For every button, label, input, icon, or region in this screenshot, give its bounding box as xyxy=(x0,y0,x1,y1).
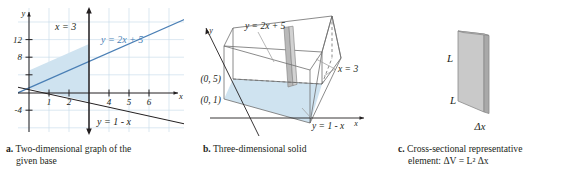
label-3d-y-equals-2x-plus-5: y = 2x + 5 xyxy=(244,21,286,31)
caption-b-line1: Three-dimensional solid xyxy=(213,143,307,154)
label-3d-y-equals-1-minus-x: y = 1 - x xyxy=(311,121,345,131)
x-axis-3d-arrowhead xyxy=(360,116,365,119)
caption-c-letter: c. xyxy=(398,143,405,154)
caption-c-line2: element: ΔV = L² Δx xyxy=(398,155,571,167)
x-axis-label: x xyxy=(178,91,183,101)
caption-a-line1: Two-dimensional graph of the xyxy=(15,143,131,154)
solid-left-face xyxy=(224,46,322,123)
element-side-label-left: L xyxy=(446,52,453,64)
y-axis-label: y xyxy=(21,8,26,18)
element-side-label-bottom: L xyxy=(449,94,456,106)
y-tick-label-12: 12 xyxy=(13,35,23,45)
element-thickness-label: Δx xyxy=(474,121,486,132)
caption-panel-c: c. Cross-sectional representative elemen… xyxy=(398,143,571,166)
caption-panel-b: b. Three-dimensional solid xyxy=(203,143,393,155)
label-3d-x-equals-3: x = 3 xyxy=(337,64,358,74)
point-label-0-1: (0, 1) xyxy=(200,95,221,106)
y-tick-label-minus-4: -4 xyxy=(15,105,23,115)
figure-container: 1 2 4 5 6 12 8 -4 x y x = 3 y = 2x + 5 y… xyxy=(0,0,571,183)
x-tick-label-5: 5 xyxy=(127,97,132,107)
caption-a-letter: a. xyxy=(6,143,13,154)
y-axis-3d-label: y xyxy=(208,26,213,35)
element-front-face xyxy=(458,31,484,112)
element-thickness-face xyxy=(484,34,489,114)
panel-c-cross-sectional-element: L L Δx xyxy=(396,0,571,140)
panel-c-svg: L L Δx xyxy=(396,0,571,140)
x-tick-label-2: 2 xyxy=(67,97,72,107)
point-label-0-5: (0, 5) xyxy=(200,74,221,85)
x-tick-label-6: 6 xyxy=(147,97,152,107)
panel-b-three-dimensional-solid: y x y = 2x + 5 y = 1 - x x = 3 (0, 5) (0… xyxy=(196,0,392,140)
x-axis-3d-label: x xyxy=(353,119,358,128)
caption-a-line2: given base xyxy=(6,155,196,167)
panel-a-two-dimensional-graph: 1 2 4 5 6 12 8 -4 x y x = 3 y = 2x + 5 y… xyxy=(0,0,200,140)
label-x-equals-3: x = 3 xyxy=(54,21,76,32)
panel-b-svg: y x y = 2x + 5 y = 1 - x x = 3 (0, 5) (0… xyxy=(196,0,392,140)
panel-a-svg: 1 2 4 5 6 12 8 -4 x y x = 3 y = 2x + 5 y… xyxy=(0,0,200,140)
caption-panel-a: a. Two-dimensional graph of the given ba… xyxy=(6,143,196,166)
caption-b-letter: b. xyxy=(203,143,211,154)
label-y-equals-2x-plus-5: y = 2x + 5 xyxy=(100,34,143,45)
caption-c-line1: Cross-sectional representative xyxy=(407,143,522,154)
x-tick-label-1: 1 xyxy=(47,97,52,107)
label-y-equals-1-minus-x: y = 1 - x xyxy=(96,116,132,127)
x-tick-label-4: 4 xyxy=(107,97,112,107)
y-tick-label-8: 8 xyxy=(18,52,23,62)
